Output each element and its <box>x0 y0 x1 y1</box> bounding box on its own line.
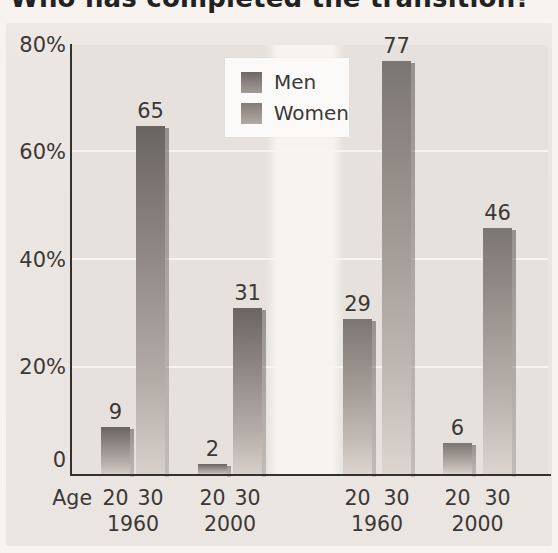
bar-value-label: 46 <box>473 201 522 225</box>
bar-women-1960-age20 <box>343 319 372 475</box>
bar-men-2000-age30 <box>233 308 262 475</box>
chart-figure: Who has completed the transition? 965231… <box>0 0 558 553</box>
ytick-20: 20% <box>8 355 66 379</box>
bar-value-label: 9 <box>91 400 140 424</box>
figure-title-cropped: Who has completed the transition? <box>10 0 550 13</box>
bar-women-2000-age30 <box>483 228 512 475</box>
legend-row-women: Women <box>241 101 349 125</box>
men-swatch-icon <box>241 72 262 93</box>
year-group-label: 1960 <box>342 512 412 536</box>
bar-shadow <box>130 429 134 477</box>
legend: Men Women <box>225 58 349 137</box>
bar-shadow <box>512 230 516 477</box>
bar-value-label: 2 <box>188 437 237 461</box>
legend-row-men: Men <box>241 70 349 94</box>
x-axis-line <box>70 474 551 476</box>
year-group-label: 2000 <box>443 512 513 536</box>
age-tick-label: 30 <box>473 486 522 510</box>
bar-shadow <box>472 445 476 477</box>
age-axis-prefix-label: Age <box>46 486 92 510</box>
age-tick-label: 30 <box>372 486 421 510</box>
age-tick-label: 30 <box>126 486 175 510</box>
bar-shadow <box>372 321 376 477</box>
bar-women-1960-age30 <box>382 61 411 475</box>
ytick-80: 80% <box>8 33 66 57</box>
bar-women-2000-age20 <box>443 443 472 475</box>
age-tick-label: 30 <box>223 486 272 510</box>
bar-shadow <box>411 63 415 477</box>
bar-value-label: 77 <box>372 34 421 58</box>
ytick-0: 0 <box>8 448 66 472</box>
bar-shadow <box>165 128 169 477</box>
bar-men-1960-age30 <box>136 126 165 475</box>
bar-men-1960-age20 <box>101 427 130 475</box>
bar-shadow <box>262 310 266 477</box>
women-swatch-icon <box>241 103 262 124</box>
legend-label-men: Men <box>274 70 316 94</box>
legend-label-women: Women <box>274 101 349 125</box>
year-group-label: 2000 <box>195 512 265 536</box>
year-group-label: 1960 <box>98 512 168 536</box>
figure-title-text: Who has completed the transition? <box>10 0 550 13</box>
ytick-40: 40% <box>8 248 66 272</box>
bar-value-label: 6 <box>433 416 482 440</box>
ytick-60: 60% <box>8 140 66 164</box>
bar-value-label: 65 <box>126 99 175 123</box>
bar-value-label: 29 <box>333 292 382 316</box>
bar-value-label: 31 <box>223 281 272 305</box>
y-axis-line <box>70 44 72 476</box>
